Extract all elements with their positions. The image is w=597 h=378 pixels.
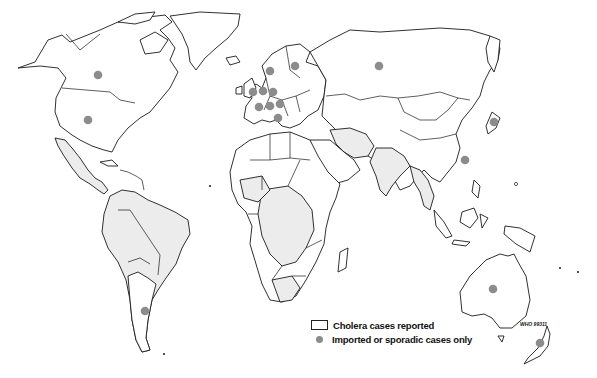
caribbean-islands [120, 170, 144, 190]
sporadic-case-marker [276, 100, 285, 109]
java [452, 240, 470, 246]
island [163, 353, 165, 355]
iceland [226, 56, 240, 65]
philippines [472, 180, 480, 198]
sporadic-case-marker [274, 114, 283, 123]
sporadic-case-marker [375, 62, 384, 71]
sporadic-case-marker [461, 156, 470, 165]
legend-item-imported: Imported or sporadic cases only [311, 332, 472, 346]
map-legend: Cholera cases reported Imported or spora… [311, 318, 472, 346]
sporadic-case-marker [255, 103, 264, 112]
sporadic-case-marker [249, 88, 258, 97]
sporadic-case-marker [94, 71, 103, 80]
sporadic-case-marker [141, 307, 150, 316]
outline-box-icon [311, 320, 328, 330]
madagascar [338, 248, 348, 272]
tasmania [498, 336, 504, 342]
sporadic-case-marker [291, 62, 300, 71]
legend-label: Imported or sporadic cases only [332, 334, 472, 345]
reference-code: WHO 99311 [520, 321, 547, 327]
sporadic-case-marker [489, 285, 498, 294]
sporadic-case-marker [269, 88, 278, 97]
legend-label: Cholera cases reported [333, 320, 434, 331]
island [577, 271, 579, 273]
island [559, 267, 561, 269]
island [209, 185, 211, 187]
sporadic-case-marker [490, 118, 499, 127]
cuba [100, 160, 118, 166]
sporadic-case-marker [266, 67, 275, 76]
legend-item-reported: Cholera cases reported [311, 318, 472, 332]
borneo [460, 208, 478, 228]
sporadic-case-marker [266, 102, 275, 111]
new-guinea [504, 226, 535, 252]
sporadic-case-marker [84, 116, 93, 125]
sumatra [434, 210, 452, 238]
sporadic-case-marker [536, 339, 545, 348]
ireland [236, 86, 242, 94]
sulawesi [480, 214, 488, 228]
sporadic-case-marker [259, 87, 268, 96]
world-map [0, 0, 597, 378]
island [514, 182, 517, 185]
grey-dot-icon [316, 336, 323, 343]
